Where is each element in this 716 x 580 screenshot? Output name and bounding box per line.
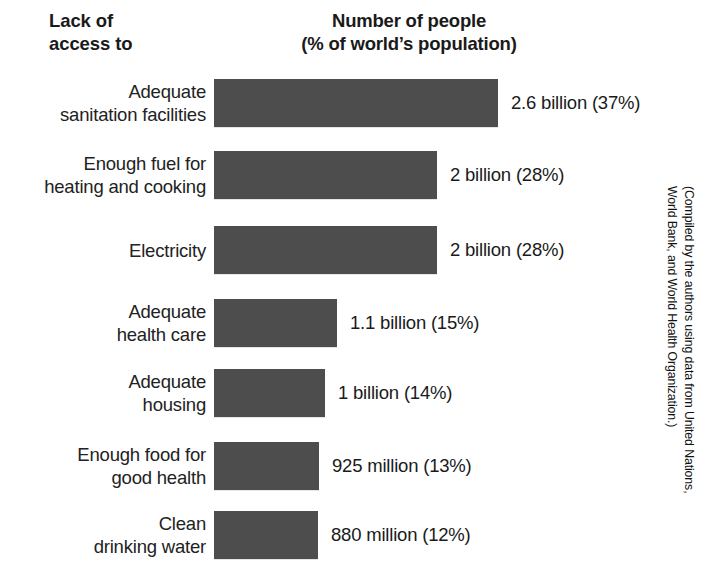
bar-row: Adequatehealth care1.1 billion (15%) <box>0 299 660 347</box>
chart-source-credit: (Compiled by the authors using data from… <box>663 186 697 556</box>
bar-category-label: Adequatesanitation facilities <box>6 81 206 127</box>
bar-value-label: 2.6 billion (37%) <box>511 94 640 113</box>
bar-category-label-line2: drinking water <box>6 536 206 559</box>
bar-category-label: Enough food forgood health <box>6 444 206 490</box>
bar-value-label: 2 billion (28%) <box>450 241 564 260</box>
bar-category-label-line1: Adequate <box>6 81 206 104</box>
bar <box>214 151 437 199</box>
bar-category-label: Adequatehousing <box>6 371 206 417</box>
bar-value-label: 2 billion (28%) <box>450 166 564 185</box>
bar-row: Adequatehousing1 billion (14%) <box>0 369 660 417</box>
bar-category-label-line1: Adequate <box>6 371 206 394</box>
bar-category-label-line1: Enough fuel for <box>6 153 206 176</box>
chart-source-credit-line2: World Bank, and World Health Organizatio… <box>663 186 680 556</box>
bar-category-label-line2: housing <box>6 394 206 417</box>
bar <box>214 226 437 274</box>
chart-source-credit-line1: (Compiled by the authors using data from… <box>680 186 697 556</box>
bar <box>214 369 325 417</box>
bar-row: Enough food forgood health925 million (1… <box>0 442 660 490</box>
bar-row: Cleandrinking water880 million (12%) <box>0 511 660 559</box>
bar-category-label: Cleandrinking water <box>6 513 206 559</box>
bar-category-label: Electricity <box>6 240 206 263</box>
bar-category-label-line2: good health <box>6 467 206 490</box>
bar-category-label-line1: Electricity <box>6 240 206 263</box>
bar-value-label: 925 million (13%) <box>332 457 472 476</box>
bar-category-label-line2: heating and cooking <box>6 176 206 199</box>
bar-chart-plot-area: Adequatesanitation facilities2.6 billion… <box>0 0 660 580</box>
bar-category-label: Adequatehealth care <box>6 301 206 347</box>
bar-category-label-line2: sanitation facilities <box>6 104 206 127</box>
bar-category-label-line1: Adequate <box>6 301 206 324</box>
bar-category-label-line2: health care <box>6 324 206 347</box>
bar-category-label: Enough fuel forheating and cooking <box>6 153 206 199</box>
bar-row: Electricity2 billion (28%) <box>0 226 660 274</box>
bar-row: Adequatesanitation facilities2.6 billion… <box>0 79 660 127</box>
bar-category-label-line1: Clean <box>6 513 206 536</box>
bar <box>214 299 337 347</box>
bar-value-label: 1.1 billion (15%) <box>350 314 479 333</box>
bar-row: Enough fuel forheating and cooking2 bill… <box>0 151 660 199</box>
bar-category-label-line1: Enough food for <box>6 444 206 467</box>
bar <box>214 442 319 490</box>
bar-value-label: 880 million (12%) <box>331 526 471 545</box>
bar <box>214 511 318 559</box>
bar <box>214 79 498 127</box>
bar-value-label: 1 billion (14%) <box>338 384 452 403</box>
